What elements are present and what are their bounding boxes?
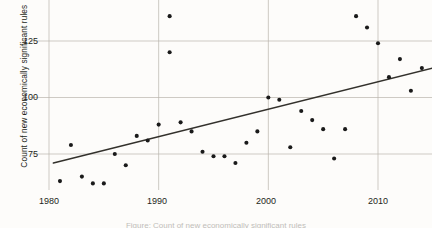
x-tick-label-2000: 2000 (246, 197, 286, 206)
data-point (376, 41, 380, 45)
data-point (266, 95, 270, 99)
data-point (299, 109, 303, 113)
x-tick-label-1990: 1990 (137, 197, 177, 206)
data-point (222, 154, 226, 158)
data-point (200, 150, 204, 154)
data-point (277, 98, 281, 102)
data-point (420, 66, 424, 70)
data-point (398, 57, 402, 61)
figure-container: Count of new economically significant ru… (0, 0, 432, 228)
data-point (343, 127, 347, 131)
data-point (168, 50, 172, 54)
data-point (135, 134, 139, 138)
data-point (244, 141, 248, 145)
x-tick-label-2010: 2010 (358, 197, 398, 206)
data-point (113, 152, 117, 156)
data-point (310, 118, 314, 122)
data-point (233, 161, 237, 165)
data-point (332, 156, 336, 160)
data-point (69, 143, 73, 147)
figure-caption: Figure: Count of new economically signif… (0, 221, 432, 228)
y-tick-label-75: 75 (8, 150, 38, 159)
data-point (387, 75, 391, 79)
data-point (80, 175, 84, 179)
data-point (409, 89, 413, 93)
y-tick-label-100: 100 (8, 93, 38, 102)
x-tick-label-1980: 1980 (29, 197, 69, 206)
data-point (124, 163, 128, 167)
data-point (102, 181, 106, 185)
data-point (255, 129, 259, 133)
data-point (146, 138, 150, 142)
trend-line (53, 68, 432, 163)
scatter-plot (0, 0, 432, 228)
data-point (354, 14, 358, 18)
data-point (91, 181, 95, 185)
data-point (288, 145, 292, 149)
data-point (321, 127, 325, 131)
data-point (168, 14, 172, 18)
data-point (190, 129, 194, 133)
data-point (179, 120, 183, 124)
data-point (365, 25, 369, 29)
data-point (58, 179, 62, 183)
data-point (157, 123, 161, 127)
y-tick-label-125: 125 (8, 37, 38, 46)
data-point (211, 154, 215, 158)
